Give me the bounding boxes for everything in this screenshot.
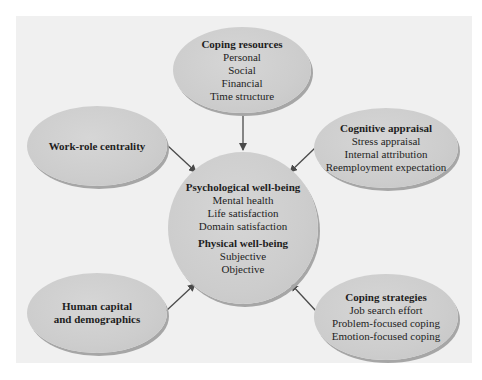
coping-strategies-item: Job search effort bbox=[349, 304, 422, 317]
coping-strategies-item: Problem-focused coping bbox=[332, 317, 440, 330]
cognitive-appraisal-item: Reemployment expectation bbox=[326, 161, 447, 174]
coping-resources-item: Social bbox=[228, 64, 256, 77]
coping-strategies-title: Coping strategies bbox=[345, 291, 427, 304]
arrow-coping-strategies bbox=[291, 284, 316, 311]
cognitive-appraisal-item: Internal attribution bbox=[345, 148, 428, 161]
arrow-work-role-centrality bbox=[168, 146, 196, 172]
psychological-item: Mental health bbox=[213, 194, 274, 207]
node-work-role-centrality: Work-role centrality bbox=[27, 106, 167, 186]
coping-resources-item: Personal bbox=[223, 51, 261, 64]
node-coping-resources: Coping resources Personal Social Financi… bbox=[173, 27, 311, 113]
coping-resources-item: Financial bbox=[222, 77, 263, 90]
cognitive-appraisal-item: Stress appraisal bbox=[352, 135, 421, 148]
physical-item: Objective bbox=[222, 263, 265, 276]
node-human-capital: Human capital and demographics bbox=[27, 273, 167, 353]
work-role-centrality-title: Work-role centrality bbox=[49, 140, 146, 153]
physical-well-being-title: Physical well-being bbox=[198, 237, 288, 250]
node-cognitive-appraisal: Cognitive appraisal Stress appraisal Int… bbox=[314, 108, 458, 188]
coping-strategies-item: Emotion-focused coping bbox=[332, 330, 440, 343]
human-capital-title-line1: Human capital bbox=[62, 300, 132, 313]
physical-item: Subjective bbox=[220, 250, 266, 263]
psychological-well-being-title: Psychological well-being bbox=[186, 181, 301, 194]
coping-resources-title: Coping resources bbox=[201, 38, 282, 51]
arrow-cognitive-appraisal bbox=[290, 148, 315, 172]
cognitive-appraisal-title: Cognitive appraisal bbox=[340, 122, 432, 135]
node-coping-strategies: Coping strategies Job search effort Prob… bbox=[314, 274, 458, 360]
arrow-human-capital bbox=[166, 284, 195, 311]
node-well-being: Psychological well-being Mental health L… bbox=[168, 152, 318, 304]
human-capital-title-line2: and demographics bbox=[54, 313, 141, 326]
psychological-item: Life satisfaction bbox=[207, 207, 278, 220]
psychological-item: Domain satisfaction bbox=[199, 220, 287, 233]
coping-resources-item: Time structure bbox=[210, 90, 274, 103]
